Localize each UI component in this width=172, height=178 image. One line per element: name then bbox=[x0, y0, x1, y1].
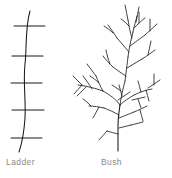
canvas-background bbox=[0, 0, 172, 178]
ladder-caption: Ladder bbox=[6, 158, 35, 167]
bush-caption: Bush bbox=[101, 158, 122, 167]
figure-canvas bbox=[0, 0, 172, 178]
